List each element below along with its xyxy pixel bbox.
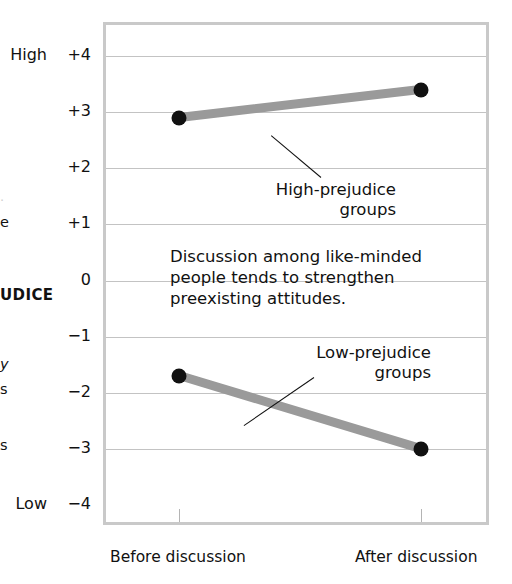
series-line-low-prejudice [178,372,422,454]
axis-caption-fragment-s1: s [0,381,8,397]
gridline-2 [106,168,486,169]
callout-low-line2: groups [216,363,431,383]
x-category-label-before: Before discussion [110,548,246,566]
annotation-polarization-note: Discussion among like-minded people tend… [170,247,470,309]
callout-label-high-prejudice: High-prejudice groups [181,180,396,220]
y-tick-label-0: 0 [57,270,91,289]
y-tick-label-1: +1 [57,213,91,232]
axis-pole-label-high: High [0,45,47,64]
y-tick-label-3: +3 [57,101,91,120]
series-line-high-prejudice [178,85,421,122]
y-tick-label-neg4: −4 [57,494,91,513]
group-polarization-chart: · e UDICE y s s High Low +4+3+2+10−1−2−3… [0,0,512,584]
x-category-label-after: After discussion [355,548,477,566]
y-tick-label-2: +2 [57,157,91,176]
plot-area: High-prejudice groups Low-prejudice grou… [103,22,489,525]
gridline-neg3 [106,449,486,450]
gridline-neg2 [106,393,486,394]
callout-low-line1: Low-prejudice [216,343,431,363]
axis-caption-fragment-y: y [0,356,9,372]
x-tick-0 [179,509,180,522]
axis-caption-fragment-dot: · [0,193,4,208]
y-tick-label-neg1: −1 [57,326,91,345]
axis-caption-fragment-s2: s [0,437,8,453]
y-tick-label-neg2: −2 [57,382,91,401]
gridline-1 [106,224,486,225]
callout-leader-high-prejudice [271,135,322,178]
gridline-3 [106,112,486,113]
axis-title-prejudice: UDICE [0,286,53,304]
callout-high-line2: groups [181,200,396,220]
x-tick-1 [421,509,422,522]
data-point-low-before [171,368,186,383]
y-tick-label-4: +4 [57,45,91,64]
data-point-high-before [171,110,186,125]
axis-caption-fragment-e: e [0,214,9,230]
callout-high-line1: High-prejudice [181,180,396,200]
y-tick-label-neg3: −3 [57,438,91,457]
callout-label-low-prejudice: Low-prejudice groups [216,343,431,383]
data-point-high-after [413,82,428,97]
data-point-low-after [413,441,428,456]
axis-pole-label-low: Low [0,494,47,513]
gridline-neg1 [106,337,486,338]
gridline-4 [106,56,486,57]
